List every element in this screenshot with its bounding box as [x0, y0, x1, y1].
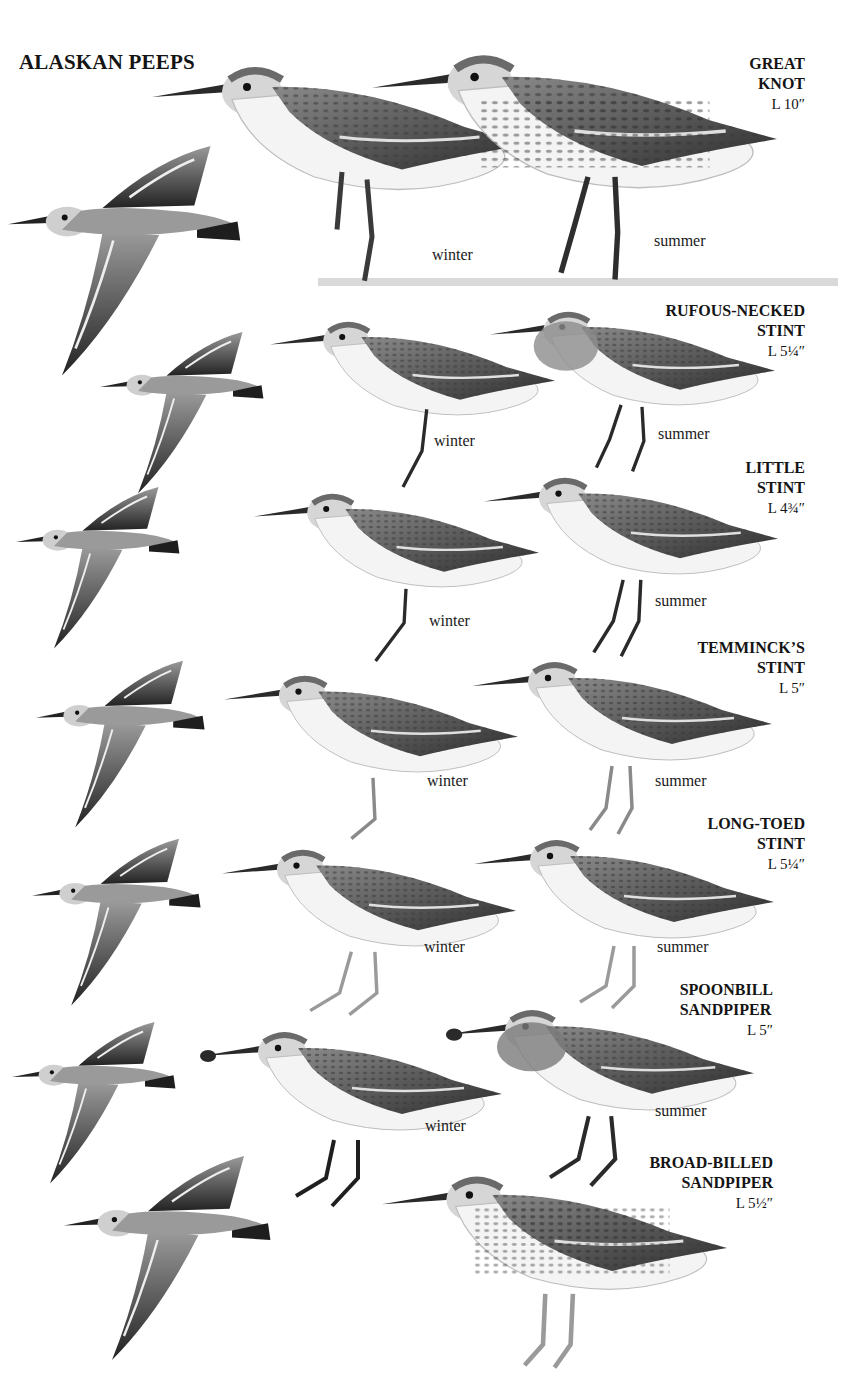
caption-summer: summer — [655, 1102, 707, 1120]
broad-billed-sandpiper-flight-figure — [64, 1156, 270, 1360]
species-label-rufous-necked-stint: RUFOUS-NECKED STINT L 5¼″ — [665, 301, 805, 361]
little-stint-winter-figure — [254, 495, 539, 661]
caption-summer: summer — [655, 772, 707, 790]
caption-winter: winter — [434, 432, 475, 450]
caption-winter: winter — [427, 772, 468, 790]
species-name-line2: STINT — [697, 658, 805, 678]
little-stint-summer-figure — [484, 479, 778, 656]
species-name-line1: TEMMINCK’S — [697, 638, 805, 658]
rufous-necked-stint-flight-figure — [100, 332, 263, 494]
species-name-line1: BROAD-BILLED — [649, 1153, 773, 1173]
spoonbill-sandpiper-flight-figure — [12, 1022, 175, 1184]
temmincks-stint-flight-figure — [36, 661, 205, 828]
species-name-line1: SPOONBILL — [680, 980, 773, 1000]
field-guide-plate: ALASKAN PEEPS — [0, 0, 843, 1388]
water-line — [318, 278, 838, 286]
species-name-line2: SANDPIPER — [649, 1173, 773, 1193]
species-name-line2: STINT — [708, 834, 806, 854]
long-toed-stint-flight-figure — [32, 839, 201, 1006]
species-length: L 5″ — [697, 678, 805, 698]
caption-summer: summer — [657, 938, 709, 956]
caption-summer: summer — [658, 425, 710, 443]
species-name-line1: LITTLE — [745, 458, 805, 478]
species-length: L 5¼″ — [708, 854, 806, 874]
species-length: L 10″ — [749, 94, 805, 114]
caption-winter: winter — [429, 612, 470, 630]
species-label-spoonbill-sandpiper: SPOONBILL SANDPIPER L 5″ — [680, 980, 773, 1040]
caption-winter: winter — [424, 938, 465, 956]
caption-summer: summer — [655, 592, 707, 610]
long-toed-stint-winter-figure — [222, 851, 516, 1015]
species-length: L 5½″ — [649, 1193, 773, 1213]
rufous-necked-stint-winter-figure — [270, 323, 555, 487]
species-label-long-toed-stint: LONG-TOED STINT L 5¼″ — [708, 814, 806, 874]
great-knot-flight-figure — [8, 146, 240, 376]
species-name-line1: GREAT — [749, 54, 805, 74]
species-label-broad-billed-sandpiper: BROAD-BILLED SANDPIPER L 5½″ — [649, 1153, 773, 1213]
caption-summer: summer — [654, 232, 706, 250]
caption-winter: winter — [432, 246, 473, 264]
species-label-temmincks-stint: TEMMINCK’S STINT L 5″ — [697, 638, 805, 698]
species-length: L 4¾″ — [745, 498, 805, 518]
little-stint-flight-figure — [16, 487, 179, 649]
species-label-little-stint: LITTLE STINT L 4¾″ — [745, 458, 805, 518]
temmincks-stint-winter-figure — [224, 677, 518, 839]
species-label-great-knot: GREAT KNOT L 10″ — [749, 54, 805, 114]
species-name-line1: LONG-TOED — [708, 814, 806, 834]
species-name-line2: STINT — [745, 478, 805, 498]
species-name-line2: KNOT — [749, 74, 805, 94]
caption-winter: winter — [425, 1117, 466, 1135]
species-name-line1: RUFOUS-NECKED — [665, 301, 805, 321]
species-name-line2: STINT — [665, 321, 805, 341]
species-name-line2: SANDPIPER — [680, 1000, 773, 1020]
species-length: L 5¼″ — [665, 341, 805, 361]
species-length: L 5″ — [680, 1020, 773, 1040]
